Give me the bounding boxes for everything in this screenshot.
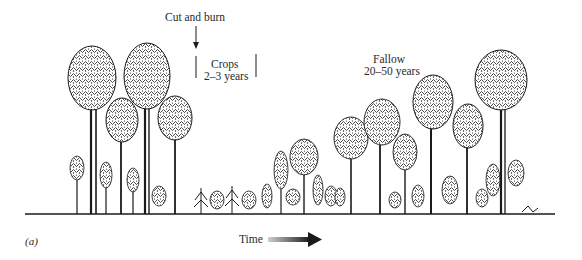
mature-forest-left — [68, 43, 192, 214]
crops-plants — [194, 186, 256, 214]
time-axis-label: Time — [239, 233, 263, 246]
time-arrow — [268, 232, 322, 247]
panel-label: (a) — [25, 235, 38, 248]
mature-forest-right — [412, 50, 538, 214]
shifting-cultivation-illustration — [0, 0, 582, 260]
cut-and-burn-arrow — [193, 26, 199, 49]
cut-and-burn-label: Cut and burn — [165, 11, 225, 24]
fallow-duration: 20–50 years — [364, 65, 420, 78]
fallow-regrowth — [262, 99, 417, 214]
crops-duration: 2–3 years — [204, 70, 248, 83]
